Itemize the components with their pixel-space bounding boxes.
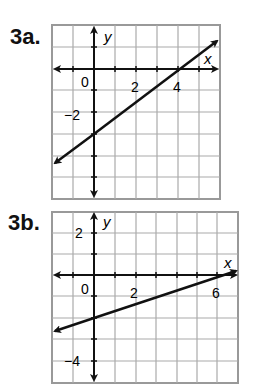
svg-text:0: 0 <box>81 281 89 297</box>
svg-text:x: x <box>203 50 212 67</box>
svg-text:2: 2 <box>130 285 138 301</box>
line-3b <box>55 318 94 331</box>
svg-text:0: 0 <box>81 74 89 90</box>
graph-3b: y x 0 2 6 2 −4 <box>52 212 238 383</box>
line-3a <box>55 134 94 163</box>
svg-text:x: x <box>223 254 232 271</box>
svg-text:2: 2 <box>131 79 139 95</box>
svg-text:−2: −2 <box>64 107 80 123</box>
svg-text:y: y <box>102 213 112 230</box>
graph-3a: y x 0 2 4 −2 <box>52 25 220 199</box>
svg-text:2: 2 <box>75 225 83 241</box>
graphs: y x 0 2 4 −2 <box>0 0 256 389</box>
svg-text:4: 4 <box>173 79 181 95</box>
svg-text:y: y <box>103 28 113 45</box>
svg-text:−4: −4 <box>64 353 80 369</box>
svg-text:6: 6 <box>212 285 220 301</box>
